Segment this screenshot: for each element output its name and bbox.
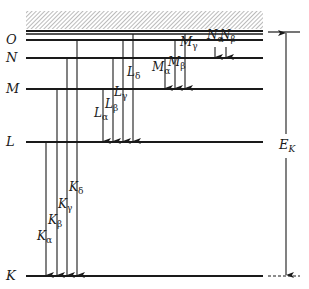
- transition-subscript: γ: [192, 41, 197, 51]
- transition-label-M-β: Mβ: [168, 56, 186, 71]
- transition-series-letter: K: [69, 180, 78, 194]
- level-label-K: K: [6, 269, 16, 282]
- transition-series-letter: M: [152, 60, 164, 74]
- transition-label-M-γ: Mγ: [180, 36, 198, 51]
- transition-series-letter: M: [168, 55, 180, 69]
- transition-series-letter: K: [37, 229, 46, 243]
- transition-series-letter: L: [94, 106, 102, 120]
- transition-label-K-δ: Kδ: [69, 181, 83, 196]
- transition-label-K-β: Kβ: [48, 214, 62, 229]
- transition-subscript: γ: [122, 91, 127, 101]
- transition-subscript: β: [231, 34, 236, 44]
- diagram-canvas: [0, 0, 309, 289]
- xray-energy-level-diagram: ONMLKKαKβKγKδLαLβLγLδMαMβMγNαNβEK: [0, 0, 309, 289]
- transition-label-K-α: Kα: [37, 230, 52, 245]
- transition-series-letter: L: [127, 65, 135, 79]
- transition-series-letter: N: [207, 28, 218, 42]
- hatch-rect: [26, 11, 263, 29]
- ek-letter: E: [279, 137, 289, 152]
- level-label-L: L: [6, 135, 15, 148]
- level-label-M: M: [6, 82, 19, 95]
- transition-series-letter: K: [58, 197, 67, 211]
- transition-subscript: α: [46, 235, 52, 245]
- energy-levels: [26, 40, 263, 276]
- transition-label-L-δ: Lδ: [127, 66, 140, 81]
- transition-label-N-β: Nβ: [220, 29, 236, 44]
- transition-series-letter: K: [48, 213, 57, 227]
- ek-label: EK: [279, 138, 295, 154]
- transition-subscript: α: [102, 112, 108, 122]
- transition-series-letter: L: [114, 85, 122, 99]
- transition-series-letter: N: [220, 28, 231, 42]
- transition-subscript: δ: [135, 71, 140, 81]
- transition-subscript: γ: [67, 203, 72, 213]
- transition-label-K-γ: Kγ: [58, 198, 72, 213]
- ek-energy-arrow: [268, 32, 300, 276]
- transition-series-letter: M: [180, 35, 192, 49]
- transition-series-letter: L: [105, 97, 113, 111]
- transition-subscript: β: [180, 61, 185, 71]
- ek-subscript: K: [289, 144, 296, 154]
- level-label-O: O: [6, 33, 17, 46]
- transition-label-L-γ: Lγ: [114, 86, 127, 101]
- transition-subscript: β: [113, 103, 118, 113]
- level-label-N: N: [6, 51, 17, 64]
- transition-subscript: β: [57, 219, 62, 229]
- transition-subscript: δ: [78, 186, 83, 196]
